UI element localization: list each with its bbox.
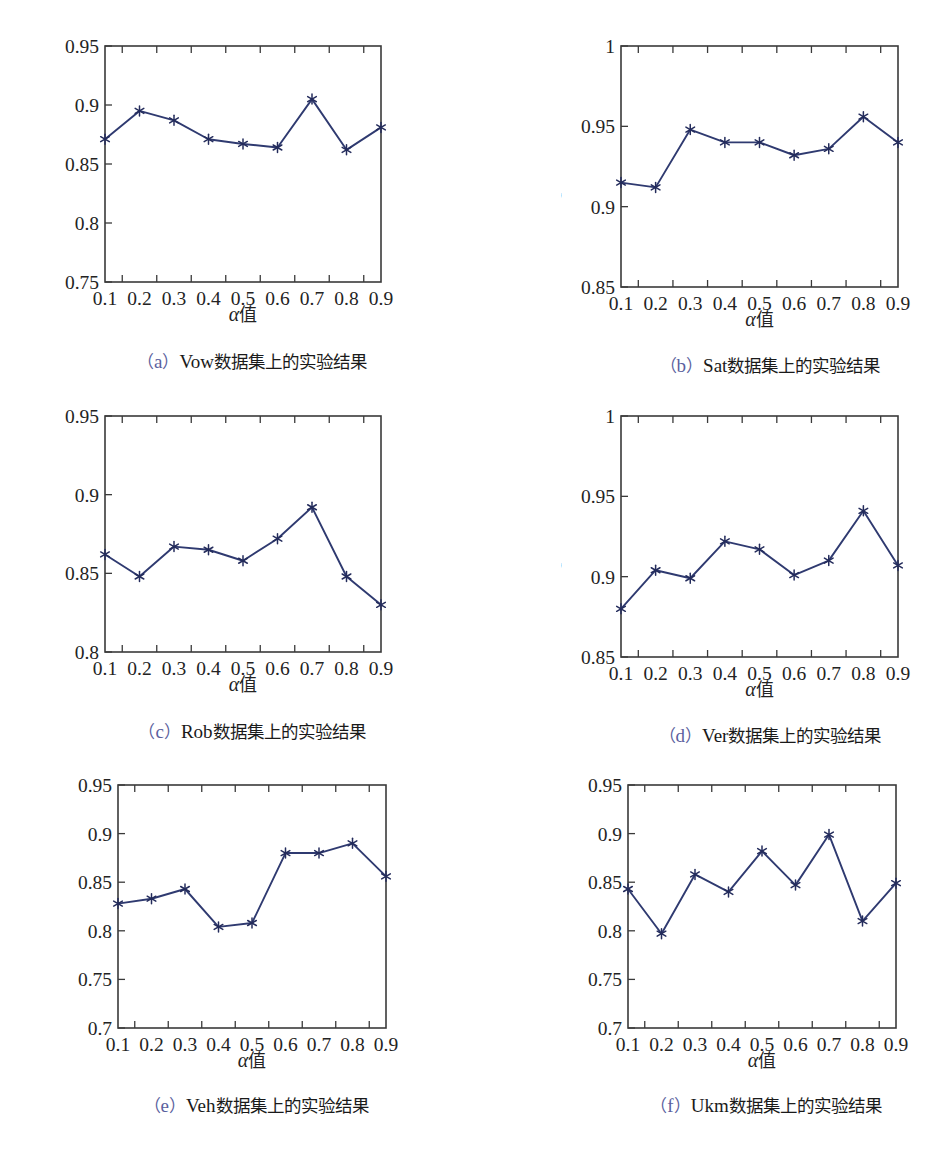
x-axis-label-cjk: 值: [239, 674, 257, 695]
x-axis-label-f: α值: [588, 1046, 936, 1072]
x-axis-label-cjk: 值: [756, 679, 774, 700]
chart-panel-f: 0.70.750.80.850.90.950.10.20.30.40.50.60…: [568, 725, 942, 1092]
y-tick-label: 0.95: [65, 406, 99, 427]
alpha-symbol: α: [229, 303, 240, 325]
plot-area-c: 0.80.850.90.950.10.20.30.40.50.60.70.80.…: [45, 356, 441, 712]
x-axis-label-cjk: 值: [756, 309, 774, 330]
y-axis-label: F1-measure: [561, 123, 564, 212]
y-tick-label: 0.9: [75, 485, 99, 506]
caption-cjk-text: 数据集上的实验结果: [729, 1096, 882, 1116]
y-tick-label: 1: [605, 406, 615, 427]
y-tick-label: 0.95: [78, 775, 112, 796]
y-tick-label: 0.95: [581, 486, 615, 507]
y-tick-label: 0.95: [65, 36, 99, 57]
y-tick-label: 0.85: [588, 872, 622, 893]
data-point-marker: [101, 549, 110, 559]
axis-frame: [621, 416, 898, 657]
chart-panel-d: 0.850.90.9510.10.20.30.40.50.60.70.80.9F…: [561, 356, 942, 721]
caption-paren-close: ）: [674, 1096, 691, 1116]
y-tick-label: 0.95: [581, 116, 615, 137]
y-label-subscript: 1: [561, 562, 564, 569]
svg-text:F1-measure: F1-measure: [568, 863, 570, 952]
y-tick-label: 0.8: [88, 921, 112, 942]
y-axis-label: F1-measure: [45, 120, 46, 209]
x-axis-label-cjk: 值: [248, 1050, 266, 1071]
figure-grid: 0.750.80.850.90.950.10.20.30.40.50.60.70…: [0, 0, 942, 1165]
y-axis-label: F1-measure: [45, 490, 46, 579]
y-tick-label: 0.9: [88, 824, 112, 845]
alpha-symbol: α: [238, 1049, 249, 1071]
y-axis-label: F1-measure: [568, 863, 570, 952]
chart-panel-e: 0.70.750.80.850.90.950.10.20.30.40.50.60…: [58, 725, 446, 1092]
x-axis-label-e: α值: [78, 1046, 426, 1072]
y-tick-label: 0.95: [588, 775, 622, 796]
y-tick-label: 0.9: [75, 95, 99, 116]
y-label-subscript: 1: [568, 932, 570, 939]
x-axis-label-d: α值: [581, 675, 938, 701]
plot-area-f: 0.70.750.80.850.90.950.10.20.30.40.50.60…: [568, 725, 942, 1088]
x-axis-label-cjk: 值: [758, 1050, 776, 1071]
chart-panel-a: 0.750.80.850.90.950.10.20.30.40.50.60.70…: [45, 0, 441, 346]
y-tick-label: 0.75: [588, 969, 622, 990]
plot-area-d: 0.850.90.9510.10.20.30.40.50.60.70.80.9F…: [561, 356, 942, 717]
axis-frame: [628, 785, 896, 1028]
alpha-symbol: α: [745, 308, 756, 330]
y-tick-label: 0.8: [598, 921, 622, 942]
caption-paren-open: （: [650, 1096, 667, 1116]
y-label-subscript: 1: [45, 560, 46, 567]
svg-text:F1-measure: F1-measure: [561, 493, 564, 582]
x-axis-label-b: α值: [581, 305, 938, 331]
caption-paren-close: ）: [169, 1096, 186, 1116]
axis-frame: [621, 46, 898, 287]
data-point-marker: [377, 122, 386, 132]
y-tick-label: 1: [605, 36, 615, 57]
caption-paren-open: （: [144, 1096, 161, 1116]
svg-text:F1-measure: F1-measure: [45, 120, 46, 209]
y-label-subscript: 1: [561, 192, 564, 199]
caption-dataset-name: Veh: [186, 1095, 216, 1116]
y-tick-label: 0.85: [65, 154, 99, 175]
x-axis-label-cjk: 值: [239, 304, 257, 325]
y-label-subscript: 1: [45, 190, 46, 197]
plot-area-b: 0.850.90.9510.10.20.30.40.50.60.70.80.9F…: [561, 0, 942, 347]
series-line-Sat: [621, 117, 898, 188]
alpha-symbol: α: [745, 678, 756, 700]
axis-frame: [105, 416, 381, 652]
svg-text:F1-measure: F1-measure: [561, 123, 564, 212]
chart-panel-c: 0.80.850.90.950.10.20.30.40.50.60.70.80.…: [45, 356, 441, 716]
caption-dataset-name: Ukm: [691, 1095, 729, 1116]
svg-text:F1-measure: F1-measure: [45, 490, 46, 579]
axis-frame: [105, 46, 381, 282]
y-tick-label: 0.9: [591, 567, 615, 588]
axis-frame: [118, 785, 386, 1028]
y-tick-label: 0.85: [65, 563, 99, 584]
caption-index: e: [161, 1095, 169, 1116]
x-axis-label-c: α值: [65, 670, 421, 696]
y-tick-label: 0.85: [78, 872, 112, 893]
series-line-Veh: [118, 843, 386, 927]
data-point-marker: [790, 570, 799, 580]
panel-caption-e: （e）Veh数据集上的实验结果: [56, 1092, 456, 1117]
panel-caption-f: （f）Ukm数据集上的实验结果: [566, 1092, 942, 1117]
alpha-symbol: α: [748, 1049, 759, 1071]
y-axis-label: F1-measure: [561, 493, 564, 582]
x-axis-label-a: α值: [65, 300, 421, 326]
y-tick-label: 0.9: [598, 824, 622, 845]
y-tick-label: 0.75: [78, 969, 112, 990]
y-tick-label: 0.9: [591, 197, 615, 218]
data-point-marker: [894, 137, 903, 147]
alpha-symbol: α: [229, 673, 240, 695]
series-line-Ver: [621, 511, 898, 609]
plot-area-e: 0.70.750.80.850.90.950.10.20.30.40.50.60…: [58, 725, 446, 1088]
caption-cjk-text: 数据集上的实验结果: [216, 1096, 369, 1116]
y-tick-label: 0.8: [75, 213, 99, 234]
chart-panel-b: 0.850.90.9510.10.20.30.40.50.60.70.80.9F…: [561, 0, 942, 351]
plot-area-a: 0.750.80.850.90.950.10.20.30.40.50.60.70…: [45, 0, 441, 342]
